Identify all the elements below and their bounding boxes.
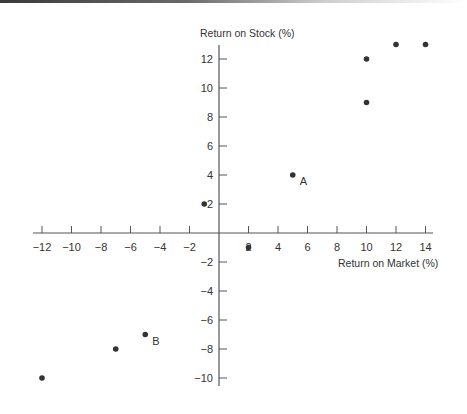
data-point bbox=[246, 245, 252, 251]
point-label-a: A bbox=[300, 175, 308, 187]
axes bbox=[33, 45, 433, 386]
x-tick-label: −10 bbox=[62, 241, 81, 253]
data-point bbox=[113, 346, 119, 352]
data-point bbox=[201, 201, 207, 207]
x-tick-label: 14 bbox=[419, 241, 431, 253]
x-tick-label: 6 bbox=[304, 241, 310, 253]
x-tick-label: −12 bbox=[33, 241, 52, 253]
x-tick-label: 10 bbox=[360, 241, 372, 253]
y-tick-label: 2 bbox=[207, 198, 213, 210]
point-label-b: B bbox=[152, 335, 159, 347]
y-axis-ticks: −10−8−6−4−224681012 bbox=[194, 53, 227, 384]
data-point bbox=[39, 375, 45, 381]
x-tick-label: −6 bbox=[124, 241, 137, 253]
y-tick-label: 12 bbox=[201, 53, 213, 65]
x-tick-label: 4 bbox=[275, 241, 281, 253]
scatter-chart: −12−10−8−6−4−22468101214 −10−8−6−4−22468… bbox=[0, 0, 467, 414]
x-tick-label: −2 bbox=[183, 241, 196, 253]
y-tick-label: −8 bbox=[200, 343, 213, 355]
y-tick-label: −2 bbox=[200, 256, 213, 268]
y-tick-label: −4 bbox=[200, 285, 213, 297]
x-tick-label: 12 bbox=[390, 241, 402, 253]
y-tick-label: −10 bbox=[194, 372, 213, 384]
data-point-a bbox=[290, 172, 296, 178]
y-tick-label: 6 bbox=[207, 140, 213, 152]
x-tick-label: −4 bbox=[154, 241, 167, 253]
y-tick-label: 4 bbox=[207, 169, 213, 181]
y-tick-label: 8 bbox=[207, 111, 213, 123]
x-axis-ticks: −12−10−8−6−4−22468101214 bbox=[33, 226, 432, 253]
data-point bbox=[364, 100, 370, 106]
x-tick-label: 8 bbox=[334, 241, 340, 253]
data-points: BA bbox=[39, 42, 428, 381]
y-axis-title: Return on Stock (%) bbox=[200, 27, 295, 39]
data-point bbox=[423, 42, 429, 48]
x-axis-title: Return on Market (%) bbox=[338, 257, 438, 269]
data-point bbox=[393, 42, 399, 48]
data-point bbox=[364, 56, 370, 62]
y-tick-label: −6 bbox=[200, 314, 213, 326]
data-point-b bbox=[142, 332, 148, 338]
y-tick-label: 10 bbox=[201, 82, 213, 94]
x-tick-label: −8 bbox=[95, 241, 108, 253]
